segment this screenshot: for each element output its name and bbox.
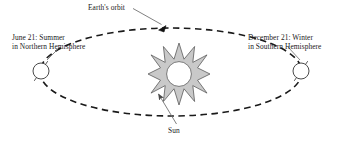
earth-june-position — [33, 62, 49, 81]
earth-june-globe — [33, 63, 49, 79]
label-december-line2: in Southern Hemisphere — [248, 42, 321, 51]
orbit-direction-arrowhead — [159, 26, 166, 32]
label-june-solstice: June 21: Summer in Northern Hemisphere — [12, 33, 85, 51]
earth-december-globe — [293, 63, 309, 79]
earth-orbit-leader-line — [133, 9, 162, 25]
label-sun: Sun — [168, 126, 180, 135]
diagram-canvas — [0, 0, 341, 145]
sun-graphic — [148, 43, 210, 105]
label-december-line1: December 21: Winter — [248, 33, 321, 42]
label-earths-orbit-text: Earth's orbit — [88, 3, 125, 12]
label-june-line1: June 21: Summer — [12, 33, 85, 42]
sun-core-circle — [167, 62, 192, 87]
earth-orbit-diagram: Earth's orbit June 21: Summer in Norther… — [0, 0, 341, 145]
label-earths-orbit: Earth's orbit — [88, 3, 125, 12]
label-december-solstice: December 21: Winter in Southern Hemisphe… — [248, 33, 321, 51]
sun-leader-line — [159, 94, 177, 124]
label-sun-text: Sun — [168, 126, 180, 135]
earth-december-position — [293, 62, 309, 81]
label-june-line2: in Northern Hemisphere — [12, 42, 85, 51]
